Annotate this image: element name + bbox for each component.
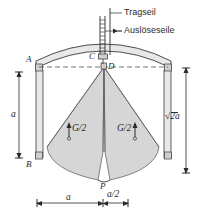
point-label-D: D xyxy=(108,62,115,71)
dimension-right-vertical xyxy=(182,67,190,174)
point-label-A: A xyxy=(26,55,32,64)
callout-label-tragseil: Tragseil xyxy=(124,8,156,17)
callout-arrow-ausloeseseile xyxy=(113,29,118,34)
sqrt-symbol-group: √2a xyxy=(165,112,180,122)
node-D-marker xyxy=(101,63,107,69)
callout-leaders xyxy=(105,13,122,31)
sqrt-overbar xyxy=(171,112,178,113)
rope-bundle xyxy=(99,8,111,64)
dimension-label-bottom-a-half: a/2 xyxy=(107,190,119,200)
callout-label-ausloeseseile: Auslöseseile xyxy=(124,26,175,35)
force-label-left: G/2 xyxy=(72,124,86,134)
left-arm xyxy=(36,68,43,158)
dimension-label-bottom-a: a xyxy=(66,193,71,203)
point-label-B: B xyxy=(26,160,32,169)
dimension-label-left-vertical: a xyxy=(11,110,16,120)
force-label-right: G/2 xyxy=(117,124,131,134)
point-label-C: C xyxy=(89,52,95,61)
dimension-bottom xyxy=(36,199,129,207)
dimension-left-vertical xyxy=(15,71,23,159)
point-label-P: P xyxy=(100,182,106,191)
dimension-label-right-vertical: √2a xyxy=(165,112,180,122)
